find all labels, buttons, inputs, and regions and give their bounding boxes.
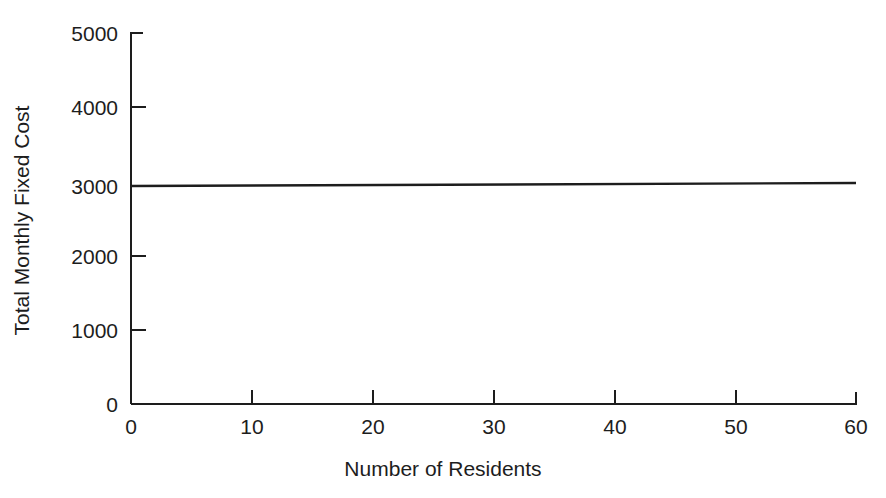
- y-tick-label-5000: 5000: [44, 23, 118, 44]
- x-axis-title: Number of Residents: [0, 458, 886, 479]
- x-tick-label-0: 0: [125, 416, 137, 437]
- x-tick-label-50: 50: [724, 416, 747, 437]
- y-tick-label-2000: 2000: [44, 246, 118, 267]
- y-tick-label-3000: 3000: [44, 176, 118, 197]
- y-axis-title-wrap: Total Monthly Fixed Cost: [0, 0, 44, 440]
- x-axis-ticks: [252, 390, 736, 404]
- y-tick-label-1000: 1000: [44, 320, 118, 341]
- x-tick-label-10: 10: [240, 416, 263, 437]
- data-series-line: [131, 183, 856, 186]
- y-axis-title: Total Monthly Fixed Cost: [12, 105, 33, 335]
- x-tick-label-60: 60: [844, 416, 867, 437]
- x-tick-label-30: 30: [482, 416, 505, 437]
- y-tick-label-0: 0: [44, 394, 118, 415]
- y-axis-spine: [131, 33, 143, 404]
- y-tick-label-4000: 4000: [44, 97, 118, 118]
- chart-figure: 5000 4000 3000 2000 1000 0 0 10 20 30 40…: [0, 0, 886, 498]
- y-axis-ticks: [131, 107, 146, 330]
- x-tick-label-40: 40: [603, 416, 626, 437]
- x-tick-label-20: 20: [361, 416, 384, 437]
